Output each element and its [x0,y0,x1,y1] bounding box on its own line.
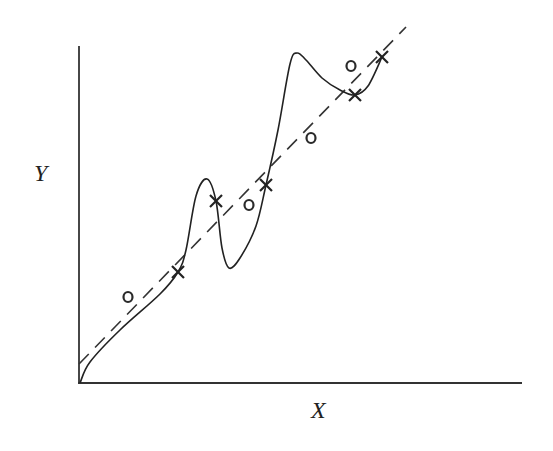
x-markers [172,51,388,278]
y-axis-label: Y [34,160,50,186]
overfitting-diagram: Y X [0,0,553,451]
o-markers [124,61,356,302]
o-marker [307,133,316,143]
axes [78,46,522,384]
x-marker [260,179,272,191]
x-marker [172,266,184,278]
overfit-curve [80,53,382,383]
o-marker [347,61,356,71]
linear-fit-line [79,27,406,364]
o-marker [124,292,133,302]
x-marker [376,51,388,63]
o-marker [245,200,254,210]
x-axis-label: X [310,397,327,423]
